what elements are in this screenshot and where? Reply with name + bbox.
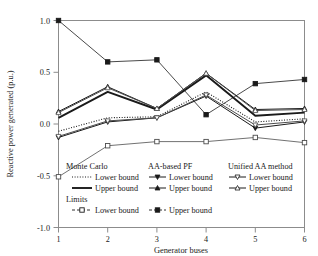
x-tick-label-6: 6 <box>302 235 306 244</box>
y-axis-title: Reactive power generated (p.u.) <box>6 70 15 177</box>
legend-group-heading: Limits <box>66 195 87 204</box>
legend-group-1: AA-based PFLower boundUpper bound <box>148 162 213 193</box>
series-2 <box>56 94 307 140</box>
x-axis: 1 2 3 4 5 6 <box>56 228 306 245</box>
y-tick-label-2: 0.5 <box>40 68 50 77</box>
chart-legend: Monte CarloLower boundUpper boundAA-base… <box>66 162 293 215</box>
legend-group-2: Unified AA methodLower boundUpper bound <box>228 162 293 193</box>
legend-group-heading: Unified AA method <box>228 162 293 171</box>
x-tick-label-2: 2 <box>106 235 110 244</box>
x-axis-title: Generator buses <box>154 246 208 255</box>
x-tick-label-3: 3 <box>155 235 159 244</box>
legend-entry-label: Lower bound <box>169 173 213 182</box>
legend-group-limits: LimitsLower boundUpper bound <box>66 195 212 215</box>
legend-entry-label: Upper bound <box>169 206 212 215</box>
legend-group-0: Monte CarloLower boundUpper bound <box>66 162 139 193</box>
y-tick-label-5: -1.0 <box>37 224 50 233</box>
legend-entry-label: Upper bound <box>95 184 138 193</box>
y-tick-label-1: 1.0 <box>40 17 50 26</box>
y-tick-label-4: -0.5 <box>37 172 50 181</box>
y-axis: 1.0 0.5 0.0 -0.5 -1.0 <box>37 17 58 233</box>
y-axis-ticks <box>54 21 59 228</box>
y-tick-label-3: 0.0 <box>40 120 50 129</box>
legend-entry-label: Lower bound <box>249 173 293 182</box>
x-tick-label-1: 1 <box>56 235 60 244</box>
reactive-power-line-chart: 1.0 0.5 0.0 -0.5 -1.0 Reactive power gen… <box>0 0 318 256</box>
legend-entry-label: Upper bound <box>169 184 212 193</box>
series-1 <box>59 75 305 117</box>
x-tick-label-4: 4 <box>204 235 208 244</box>
legend-entry-label: Lower bound <box>95 206 139 215</box>
x-axis-ticks <box>59 228 305 233</box>
legend-entry-label: Lower bound <box>95 173 139 182</box>
series-7 <box>56 18 306 117</box>
chart-figure: 1.0 0.5 0.0 -0.5 -1.0 Reactive power gen… <box>0 0 318 256</box>
legend-entry-label: Upper bound <box>249 184 292 193</box>
legend-group-heading: Monte Carlo <box>66 162 108 171</box>
x-tick-label-5: 5 <box>253 235 257 244</box>
legend-group-heading: AA-based PF <box>148 162 193 171</box>
data-series-layer <box>56 18 307 179</box>
